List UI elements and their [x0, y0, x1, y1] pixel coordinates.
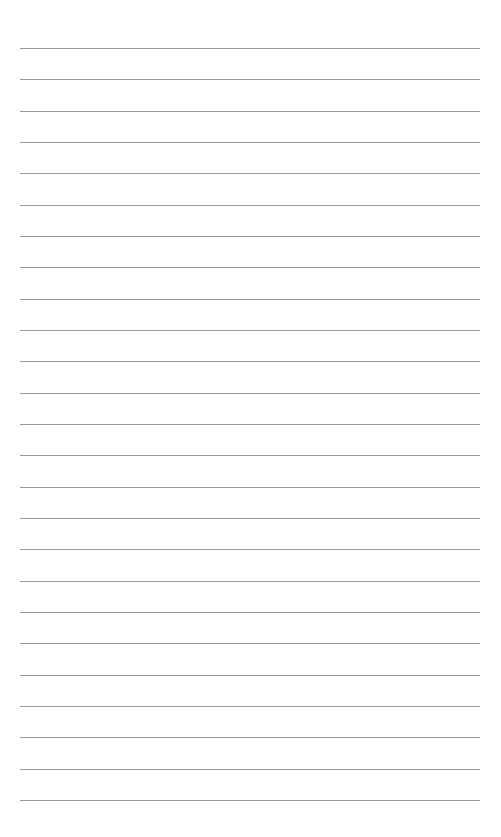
- ruled-line: [20, 48, 480, 49]
- ruled-line: [20, 330, 480, 331]
- ruled-line: [20, 424, 480, 425]
- ruled-line: [20, 142, 480, 143]
- ruled-line: [20, 737, 480, 738]
- ruled-line: [20, 769, 480, 770]
- ruled-line: [20, 706, 480, 707]
- ruled-line: [20, 111, 480, 112]
- ruled-line: [20, 800, 480, 801]
- ruled-line: [20, 643, 480, 644]
- ruled-line: [20, 267, 480, 268]
- ruled-line: [20, 612, 480, 613]
- ruled-line: [20, 299, 480, 300]
- ruled-line: [20, 487, 480, 488]
- ruled-line: [20, 581, 480, 582]
- ruled-line: [20, 236, 480, 237]
- ruled-line: [20, 205, 480, 206]
- ruled-line: [20, 173, 480, 174]
- ruled-line: [20, 518, 480, 519]
- ruled-line: [20, 549, 480, 550]
- ruled-line: [20, 361, 480, 362]
- ruled-line: [20, 455, 480, 456]
- ruled-line: [20, 393, 480, 394]
- ruled-line: [20, 79, 480, 80]
- ruled-line: [20, 675, 480, 676]
